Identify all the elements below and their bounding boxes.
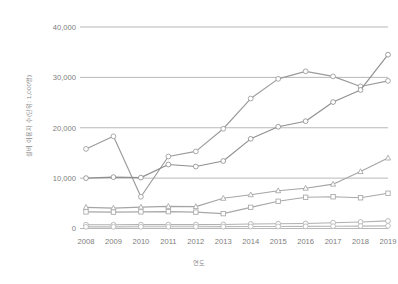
data-point-marker bbox=[193, 164, 198, 169]
data-point-marker bbox=[84, 224, 89, 229]
data-point-marker bbox=[139, 175, 144, 180]
chart-plot-area: 010,00020,00030,00040,000 20082009201020… bbox=[0, 0, 398, 284]
data-point-marker bbox=[166, 209, 170, 213]
data-point-marker bbox=[276, 199, 280, 203]
data-point-marker bbox=[276, 224, 281, 229]
data-point-marker bbox=[221, 126, 226, 131]
y-tick-label: 10,000 bbox=[53, 174, 76, 183]
data-point-marker bbox=[248, 224, 253, 229]
data-point-marker bbox=[303, 119, 308, 124]
data-point-marker bbox=[331, 224, 336, 229]
x-tick-label: 2010 bbox=[132, 237, 149, 246]
x-tick-label: 2016 bbox=[297, 237, 314, 246]
data-point-marker bbox=[193, 224, 198, 229]
data-point-marker bbox=[276, 124, 281, 129]
data-point-marker bbox=[139, 224, 144, 229]
data-point-marker bbox=[111, 175, 116, 180]
x-tick-label: 2013 bbox=[215, 237, 232, 246]
data-point-marker bbox=[386, 191, 390, 195]
x-tick-label: 2009 bbox=[105, 237, 122, 246]
data-point-marker bbox=[386, 219, 391, 224]
x-tick-label: 2019 bbox=[380, 237, 397, 246]
x-tick-label: 2014 bbox=[242, 237, 259, 246]
series-line bbox=[86, 55, 388, 178]
data-point-marker bbox=[84, 147, 89, 152]
data-point-marker bbox=[194, 210, 198, 214]
x-tick-label: 2018 bbox=[352, 237, 369, 246]
y-tick-label: 40,000 bbox=[53, 23, 76, 32]
data-point-marker bbox=[358, 88, 363, 93]
x-tick-label: 2012 bbox=[187, 237, 204, 246]
data-point-marker bbox=[166, 162, 171, 167]
data-point-marker bbox=[139, 210, 143, 214]
data-point-marker bbox=[385, 155, 390, 160]
data-point-marker bbox=[303, 224, 308, 229]
data-point-marker bbox=[276, 76, 281, 81]
data-point-marker bbox=[166, 154, 171, 159]
x-tick-label: 2011 bbox=[160, 237, 176, 246]
series-line bbox=[86, 221, 388, 225]
x-axis-tick-labels: 2008200920102011201220132014201520162017… bbox=[78, 237, 397, 246]
y-tick-label: 20,000 bbox=[53, 124, 76, 133]
data-point-marker bbox=[139, 194, 144, 199]
data-point-marker bbox=[386, 79, 391, 84]
data-point-marker bbox=[84, 210, 88, 214]
data-point-marker bbox=[331, 195, 335, 199]
data-point-marker bbox=[248, 96, 253, 101]
data-point-marker bbox=[221, 224, 226, 229]
y-tick-label: 30,000 bbox=[53, 73, 76, 82]
data-point-marker bbox=[111, 210, 115, 214]
x-tick-label: 2015 bbox=[270, 237, 287, 246]
x-axis-title: 연도 bbox=[0, 258, 398, 267]
data-point-marker bbox=[303, 69, 308, 74]
data-point-marker bbox=[386, 52, 391, 57]
data-point-marker bbox=[193, 149, 198, 154]
data-point-marker bbox=[386, 223, 391, 228]
data-point-marker bbox=[111, 134, 116, 139]
data-point-marker bbox=[358, 196, 362, 200]
series-line bbox=[86, 158, 388, 208]
series-line bbox=[86, 226, 388, 227]
data-series-group bbox=[83, 52, 390, 229]
x-tick-label: 2008 bbox=[78, 237, 95, 246]
data-point-marker bbox=[221, 159, 226, 164]
data-point-marker bbox=[249, 205, 253, 209]
data-point-marker bbox=[303, 195, 307, 199]
data-point-marker bbox=[111, 224, 116, 229]
data-point-marker bbox=[166, 224, 171, 229]
y-axis-tick-labels: 010,00020,00030,00040,000 bbox=[53, 23, 76, 234]
gridlines bbox=[80, 27, 388, 229]
data-point-marker bbox=[331, 100, 336, 105]
data-point-marker bbox=[358, 224, 363, 229]
data-point-marker bbox=[221, 211, 225, 215]
x-tick-label: 2017 bbox=[325, 237, 342, 246]
data-point-marker bbox=[331, 74, 336, 79]
y-tick-label: 0 bbox=[72, 224, 76, 233]
data-point-marker bbox=[248, 136, 253, 141]
data-point-marker bbox=[84, 176, 89, 181]
line-chart: 설비 이용자 수(단위: 1,000명) 010,00020,00030,000… bbox=[0, 0, 398, 284]
